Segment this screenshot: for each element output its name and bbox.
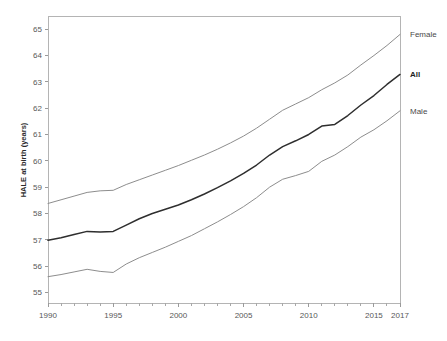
plot-frame: [48, 16, 400, 303]
y-tick-label: 56: [33, 262, 42, 271]
series-line-female: [48, 34, 400, 203]
x-tick-label: 1990: [39, 311, 57, 320]
hale-line-chart: 1990199520002005201020152017 55565758596…: [0, 0, 447, 341]
x-tick-label: 2005: [235, 311, 253, 320]
x-tick-label: 2015: [365, 311, 383, 320]
x-tick-label: 2000: [169, 311, 187, 320]
series-line-all: [48, 74, 400, 240]
y-tick-label: 62: [33, 104, 42, 113]
y-tick-label: 64: [33, 51, 42, 60]
y-tick-label: 55: [33, 288, 42, 297]
x-axis-tick-labels: 1990199520002005201020152017: [39, 311, 409, 320]
x-tick-label: 1995: [104, 311, 122, 320]
x-tick-label: 2017: [391, 311, 409, 320]
x-axis-ticks: [48, 303, 400, 307]
series-label-female: Female: [410, 30, 437, 39]
series-label-all: All: [410, 70, 420, 79]
y-tick-label: 61: [33, 130, 42, 139]
y-tick-label: 59: [33, 183, 42, 192]
y-tick-label: 58: [33, 209, 42, 218]
series-label-male: Male: [410, 107, 428, 116]
y-tick-label: 57: [33, 236, 42, 245]
series-end-labels: FemaleAllMale: [410, 30, 437, 115]
y-axis-title: HALE at birth (years): [19, 122, 28, 197]
chart-container: 1990199520002005201020152017 55565758596…: [0, 0, 447, 341]
series-line-male: [48, 111, 400, 277]
series-lines: [48, 34, 400, 276]
y-axis-tick-labels: 5556575859606162636465: [33, 25, 42, 297]
y-tick-label: 65: [33, 25, 42, 34]
y-tick-label: 63: [33, 78, 42, 87]
x-tick-label: 2010: [300, 311, 318, 320]
y-tick-label: 60: [33, 157, 42, 166]
